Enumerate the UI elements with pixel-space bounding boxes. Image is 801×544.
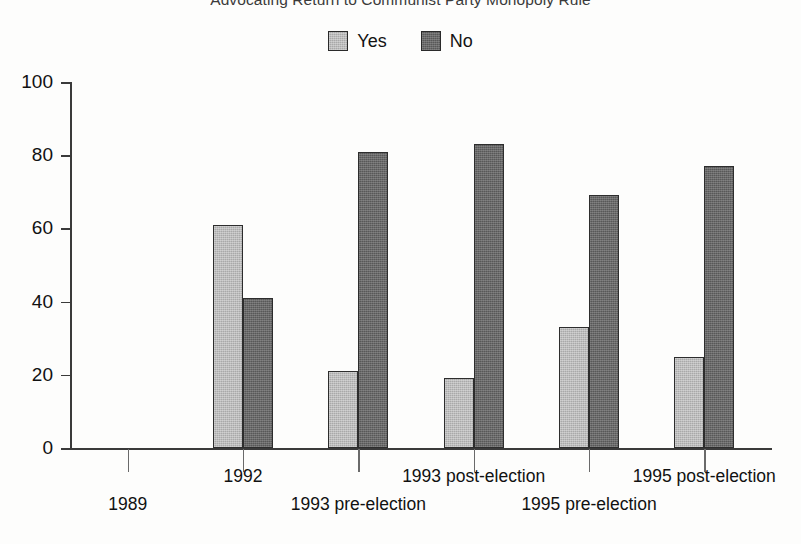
chart-legend: Yes No xyxy=(0,31,801,51)
legend-item-no[interactable]: No xyxy=(421,31,473,51)
bar-yes-1995-post-election xyxy=(674,357,704,449)
bar-no-1995-post-election xyxy=(704,166,734,448)
bar-no-1995-pre-election xyxy=(589,195,619,448)
x-axis-line xyxy=(61,448,772,450)
y-axis-tick-label: 40 xyxy=(32,291,53,313)
x-axis-label: 1995 pre-election xyxy=(521,494,656,515)
bar-chart-figure: Advocating Return to Communist Party Mon… xyxy=(0,0,801,544)
y-axis-tick xyxy=(61,302,70,304)
bar-no-1993-pre-election xyxy=(358,152,388,448)
bar-yes-1993-pre-election xyxy=(328,371,358,448)
x-axis-tick xyxy=(358,449,359,472)
x-axis-label: 1992 xyxy=(224,466,263,487)
x-axis-label: 1993 pre-election xyxy=(291,494,426,515)
y-axis-tick-label: 80 xyxy=(32,144,53,166)
x-axis-tick xyxy=(589,449,590,472)
y-axis-tick xyxy=(61,448,70,450)
x-axis-label: 1995 post-election xyxy=(633,466,776,487)
bar-no-1993-post-election xyxy=(474,144,504,448)
y-axis-tick-label: 20 xyxy=(32,364,53,386)
legend-item-yes[interactable]: Yes xyxy=(328,31,386,51)
legend-swatch-yes-icon xyxy=(328,31,348,51)
y-axis-tick-label: 0 xyxy=(42,437,53,459)
plot-area: 100806040200 xyxy=(70,82,762,448)
y-axis-tick xyxy=(61,228,70,230)
bar-yes-1992 xyxy=(213,225,243,448)
legend-swatch-no-icon xyxy=(421,31,441,51)
x-axis-label: 1993 post-election xyxy=(402,466,545,487)
bar-yes-1993-post-election xyxy=(444,378,474,448)
x-axis-tick xyxy=(128,449,129,472)
y-axis-tick xyxy=(61,82,70,84)
bar-yes-1995-pre-election xyxy=(559,327,589,448)
y-axis-tick xyxy=(61,375,70,377)
y-axis-line xyxy=(70,82,72,448)
bar-no-1992 xyxy=(243,298,273,448)
y-axis-tick xyxy=(61,155,70,157)
legend-label-no: No xyxy=(450,32,473,50)
chart-title: Advocating Return to Communist Party Mon… xyxy=(0,0,801,9)
legend-label-yes: Yes xyxy=(357,32,386,50)
y-axis-tick-label: 60 xyxy=(32,217,53,239)
y-axis-tick-label: 100 xyxy=(21,71,53,93)
x-axis-label: 1989 xyxy=(108,494,147,515)
